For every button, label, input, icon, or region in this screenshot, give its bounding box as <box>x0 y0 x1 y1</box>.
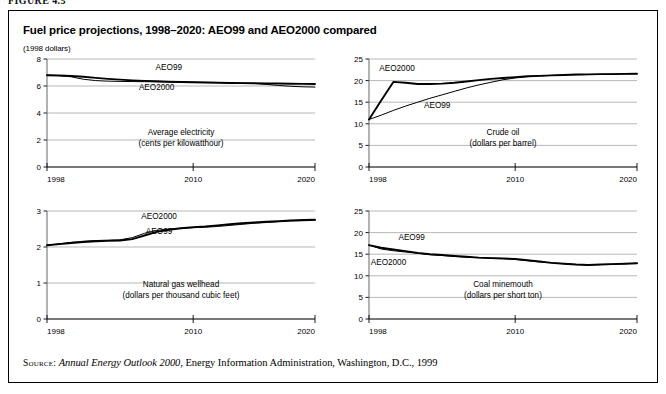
source-kicker: Source: <box>23 358 56 368</box>
page-title: Fuel price projections, 1998–2020: AEO99… <box>23 24 377 36</box>
series-line-aeo99 <box>369 245 637 265</box>
y-axis-tick-label: 5 <box>359 141 364 150</box>
chart-caption-title: Average electricity <box>148 128 216 137</box>
chart-svg-natural-gas: 0123199820102020Natural gas wellhead(dol… <box>23 205 321 345</box>
series-label-aeo2000: AEO2000 <box>379 64 415 73</box>
figure-panel: Fuel price projections, 1998–2020: AEO99… <box>8 10 658 383</box>
series-label-aeo99: AEO99 <box>398 233 425 242</box>
x-axis-tick-label: 2020 <box>619 175 637 184</box>
x-axis-tick-label: 1998 <box>369 175 387 184</box>
y-axis-tick-label: 15 <box>354 250 363 259</box>
y-axis-tick-label: 10 <box>354 120 363 129</box>
x-axis-tick-label: 1998 <box>47 327 65 336</box>
y-axis-tick-label: 3 <box>37 207 42 216</box>
series-label-aeo99: AEO99 <box>146 227 173 236</box>
chart-natural-gas: 0123199820102020Natural gas wellhead(dol… <box>23 205 321 345</box>
x-axis-tick-label: 1998 <box>369 327 387 336</box>
chart-caption-title: Natural gas wellhead <box>143 280 220 289</box>
chart-svg-electricity: 02468199820102020Average electricity(cen… <box>23 53 321 193</box>
chart-caption-subtitle: (dollars per barrel) <box>470 139 537 148</box>
y-axis-tick-label: 2 <box>37 243 42 252</box>
x-axis-tick-label: 2010 <box>184 175 202 184</box>
chart-crude-oil: 0510152025199820102020Crude oil(dollars … <box>345 53 643 193</box>
x-axis-tick-label: 2020 <box>297 327 315 336</box>
chart-svg-coal: 0510152025199820102020Coal minemouth(dol… <box>345 205 643 345</box>
series-label-aeo99: AEO99 <box>156 63 183 72</box>
y-axis-tick-label: 25 <box>354 207 363 216</box>
y-axis-tick-label: 25 <box>354 55 363 64</box>
y-axis-tick-label: 2 <box>37 136 42 145</box>
series-label-aeo99: AEO99 <box>424 101 451 110</box>
source-rest: , Energy Information Administration, Was… <box>180 357 437 368</box>
y-axis-tick-label: 15 <box>354 98 363 107</box>
chart-caption-subtitle: (dollars per thousand cubic feet) <box>123 291 240 300</box>
x-axis-tick-label: 2020 <box>619 327 637 336</box>
y-axis-tick-label: 0 <box>37 163 42 172</box>
y-axis-tick-label: 4 <box>37 109 42 118</box>
chart-grid: 02468199820102020Average electricity(cen… <box>9 53 657 343</box>
chart-caption-subtitle: (cents per kilowatthour) <box>138 139 223 148</box>
chart-coal: 0510152025199820102020Coal minemouth(dol… <box>345 205 643 345</box>
chart-svg-crude-oil: 0510152025199820102020Crude oil(dollars … <box>345 53 643 193</box>
y-axis-tick-label: 20 <box>354 77 363 86</box>
chart-caption-subtitle: (dollars per short ton) <box>464 291 542 300</box>
source-note: Source: Annual Energy Outlook 2000, Ener… <box>23 357 437 368</box>
chart-electricity: 02468199820102020Average electricity(cen… <box>23 53 321 193</box>
y-axis-tick-label: 1 <box>37 279 42 288</box>
y-axis-tick-label: 0 <box>359 163 364 172</box>
series-label-aeo2000: AEO2000 <box>141 212 177 221</box>
chart-caption-title: Crude oil <box>487 128 520 137</box>
y-axis-tick-label: 8 <box>37 55 42 64</box>
y-axis-tick-label: 5 <box>359 293 364 302</box>
series-line-aeo99 <box>47 220 315 245</box>
chart-caption-title: Coal minemouth <box>473 280 533 289</box>
source-publication: Annual Energy Outlook 2000 <box>59 357 181 368</box>
series-label-aeo2000: AEO2000 <box>371 258 407 267</box>
x-axis-tick-label: 2020 <box>297 175 315 184</box>
series-line-aeo2000 <box>369 245 637 265</box>
y-axis-tick-label: 20 <box>354 229 363 238</box>
x-axis-tick-label: 1998 <box>47 175 65 184</box>
x-axis-tick-label: 2010 <box>506 175 524 184</box>
y-axis-tick-label: 0 <box>359 315 364 324</box>
units-note: (1998 dollars) <box>23 44 71 53</box>
figure-number-label: FIGURE 4.5 <box>8 0 66 6</box>
y-axis-tick-label: 6 <box>37 82 42 91</box>
y-axis-tick-label: 0 <box>37 315 42 324</box>
x-axis-tick-label: 2010 <box>184 327 202 336</box>
x-axis-tick-label: 2010 <box>506 327 524 336</box>
y-axis-tick-label: 10 <box>354 272 363 281</box>
figure-root: FIGURE 4.5 Fuel price projections, 1998–… <box>0 0 666 394</box>
series-label-aeo2000: AEO2000 <box>139 83 175 92</box>
